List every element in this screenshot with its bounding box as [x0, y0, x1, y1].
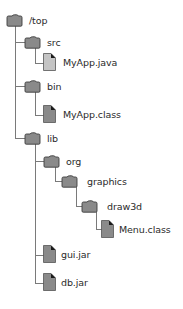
- folder-icon: [81, 200, 98, 213]
- tree-connector: [76, 187, 77, 207]
- tree-node-myapp-java[interactable]: MyApp.java: [43, 53, 117, 71]
- tree-node-menu-class[interactable]: Menu.class: [101, 220, 171, 238]
- tree-node-draw3d[interactable]: draw3d: [81, 200, 142, 213]
- file-icon: [43, 245, 56, 263]
- node-label: lib: [47, 133, 58, 144]
- tree-connector: [96, 212, 97, 230]
- node-label: MyApp.class: [63, 109, 121, 120]
- tree-node-org[interactable]: org: [43, 155, 81, 168]
- folder-icon: [24, 80, 41, 93]
- node-label: src: [47, 37, 61, 48]
- node-label: Menu.class: [119, 224, 171, 235]
- file-icon: [43, 105, 56, 123]
- node-label: draw3d: [107, 201, 142, 212]
- file-icon: [43, 273, 56, 291]
- node-label: bin: [47, 81, 61, 92]
- tree-connector: [35, 92, 36, 116]
- tree-node-src[interactable]: src: [24, 36, 61, 49]
- tree-node-gui-jar[interactable]: gui.jar: [43, 245, 90, 263]
- node-label: db.jar: [61, 277, 88, 288]
- node-label: MyApp.java: [63, 57, 117, 68]
- tree-node-top[interactable]: /top: [6, 14, 47, 27]
- file-icon: [101, 220, 114, 238]
- folder-icon: [61, 175, 78, 188]
- directory-tree: /top src MyApp.java bin MyApp.class lib: [0, 0, 183, 309]
- tree-node-lib[interactable]: lib: [24, 132, 58, 145]
- tree-node-graphics[interactable]: graphics: [61, 175, 127, 188]
- tree-connector: [35, 48, 36, 64]
- tree-node-db-jar[interactable]: db.jar: [43, 273, 88, 291]
- node-label: graphics: [87, 176, 127, 187]
- folder-icon: [24, 36, 41, 49]
- node-label: /top: [29, 15, 47, 26]
- tree-node-myapp-class[interactable]: MyApp.class: [43, 105, 121, 123]
- node-label: org: [66, 156, 81, 167]
- tree-connector: [35, 144, 36, 284]
- node-label: gui.jar: [61, 249, 90, 260]
- folder-icon: [24, 132, 41, 145]
- file-icon: [43, 53, 56, 71]
- folder-icon: [6, 14, 23, 27]
- folder-icon: [43, 155, 60, 168]
- tree-connector: [55, 167, 56, 182]
- tree-node-bin[interactable]: bin: [24, 80, 61, 93]
